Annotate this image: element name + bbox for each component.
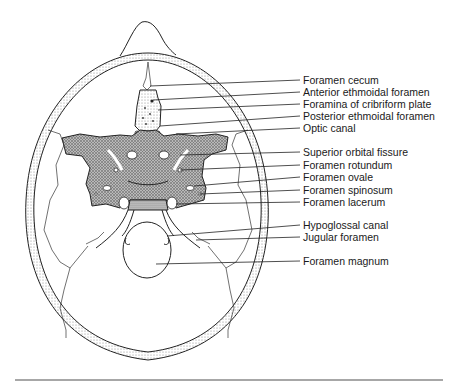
nasal-process	[120, 22, 176, 56]
label-jugular-foramen: Jugular foramen	[303, 231, 379, 243]
label-anterior-ethmoidal-foramen: Anterior ethmoidal foramen	[303, 86, 430, 98]
label-optic-canal: Optic canal	[303, 122, 356, 134]
clivus	[128, 200, 168, 210]
cribriform-plate	[135, 90, 161, 131]
label-foramen-magnum: Foramen magnum	[303, 255, 389, 267]
label-foramen-lacerum: Foramen lacerum	[303, 196, 386, 208]
label-foramen-rotundum: Foramen rotundum	[303, 159, 393, 171]
label-foramina-cribriform-plate: Foramina of cribriform plate	[303, 98, 432, 110]
label-posterior-ethmoidal-foramen: Posterior ethmoidal foramen	[303, 110, 435, 122]
optic-canal-right	[159, 151, 169, 159]
skull-base-diagram: Foramen cecum Anterior ethmoidal foramen…	[0, 0, 456, 384]
label-foramen-ovale: Foramen ovale	[303, 171, 373, 183]
foramen-magnum-shape	[123, 222, 171, 278]
label-hypoglossal-canal: Hypoglossal canal	[303, 219, 388, 231]
optic-canal-left	[127, 151, 137, 159]
foramen-ovale	[186, 186, 194, 191]
label-foramen-cecum: Foramen cecum	[303, 74, 379, 86]
label-foramen-spinosum: Foramen spinosum	[303, 184, 393, 196]
foramen-lacerum	[167, 197, 177, 209]
label-superior-orbital-fissure: Superior orbital fissure	[303, 146, 408, 158]
